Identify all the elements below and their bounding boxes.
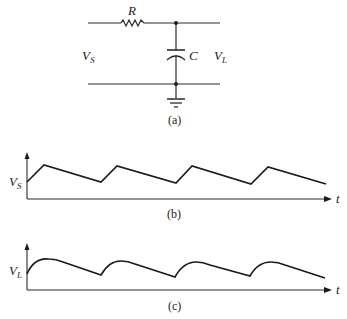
svg-text:L: L — [16, 270, 22, 280]
ground-icon — [167, 99, 185, 107]
svg-text:L: L — [221, 55, 227, 65]
load-voltage-label: V L — [214, 48, 227, 65]
plot-load-voltage: V L t (c) — [9, 243, 340, 313]
resistor-label: R — [127, 3, 136, 18]
x-axis-arrow-icon — [324, 196, 332, 202]
x-label-c: t — [336, 282, 340, 297]
caption-b: (b) — [167, 207, 181, 221]
source-voltage-label: V S — [82, 48, 95, 65]
capacitor-label: C — [189, 48, 198, 63]
caption-a: (a) — [168, 113, 181, 127]
source-waveform — [27, 165, 326, 184]
y-axis-arrow-icon — [25, 243, 30, 250]
load-waveform — [27, 259, 325, 278]
y-axis-arrow-icon — [25, 152, 30, 159]
y-label-c: V L — [9, 263, 22, 280]
rc-circuit: R C V S V L (a) — [82, 3, 227, 127]
svg-text:S: S — [90, 55, 95, 65]
caption-c: (c) — [168, 299, 181, 313]
resistor-icon — [121, 20, 144, 26]
x-axis-arrow-icon — [324, 287, 332, 293]
diagram-canvas: R C V S V L (a) V S t (b) V L — [0, 0, 347, 319]
y-label-b: V S — [9, 174, 22, 191]
plot-source-voltage: V S t (b) — [9, 152, 340, 221]
x-label-b: t — [336, 191, 340, 206]
svg-text:S: S — [17, 181, 22, 191]
